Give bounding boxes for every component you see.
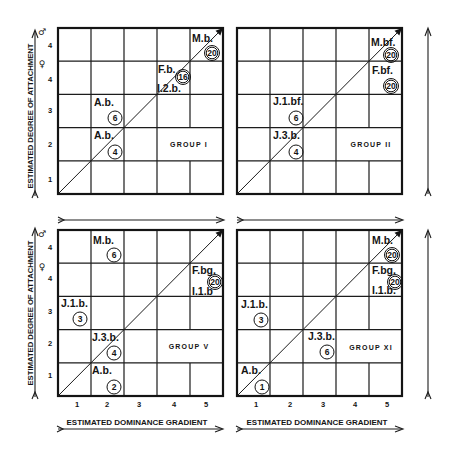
point-label: A.b. xyxy=(94,129,114,141)
point-label: A.b. xyxy=(92,364,112,376)
y-tick-4-male: 4 xyxy=(48,243,53,252)
male-symbol-icon: ♂ xyxy=(38,229,46,239)
y-tick-1: 1 xyxy=(48,175,52,184)
point-label: A.b. xyxy=(241,364,261,376)
point-count: 3 xyxy=(78,314,83,324)
female-symbol-icon: ♀ xyxy=(39,262,46,272)
x-tick-4: 4 xyxy=(353,400,358,409)
diagonal-line xyxy=(58,29,222,194)
data-point: M.bf. 20 xyxy=(371,36,399,63)
point-label: J.3.b. xyxy=(308,330,335,342)
x-tick-4: 4 xyxy=(172,400,177,409)
x-axis-label: ESTIMATED DOMINANCE GRADIENT xyxy=(67,418,208,427)
point-label: J.3.b. xyxy=(273,129,300,141)
point-count: 3 xyxy=(259,315,264,325)
y-tick-1: 1 xyxy=(48,371,52,380)
x-tick-5: 5 xyxy=(385,400,389,409)
point-count: 1 xyxy=(260,382,265,392)
x-tick-1: 1 xyxy=(254,400,258,409)
y-axis-label: ESTIMATED DEGREE OF ATTACHMENT xyxy=(26,43,35,188)
panel-group-i: M.b. 20 F.b. 16 I.2.b. A.b. 6 A.b. 4 GRO… xyxy=(58,28,223,194)
point-label: F.bf. xyxy=(372,64,393,76)
point-count: 4 xyxy=(112,348,117,358)
data-point: A.b. 2 xyxy=(92,364,121,394)
x-tick-5: 5 xyxy=(204,400,208,409)
y-tick-4-male: 4 xyxy=(48,41,53,50)
female-symbol-icon: ♀ xyxy=(39,59,46,69)
point-count: 2 xyxy=(112,382,117,392)
male-symbol-icon: ♂ xyxy=(38,27,46,37)
point-label: F.bg. xyxy=(192,264,216,276)
point-label: J.3.b. xyxy=(92,331,119,343)
x-axis-left: 1 2 3 4 5 ESTIMATED DOMINANCE GRADIENT xyxy=(57,400,223,432)
data-point: F.bg. 20 I.1.b. xyxy=(372,264,403,296)
data-point: M.b. 6 xyxy=(93,234,121,262)
point-label: J.1.bf. xyxy=(273,95,303,107)
point-label-secondary: I.2.b. xyxy=(157,82,181,94)
x-axis-label: ESTIMATED DOMINANCE GRADIENT xyxy=(247,418,388,427)
point-count: 6 xyxy=(112,250,117,260)
middle-arrow-right xyxy=(237,217,403,223)
point-label: J.1.b. xyxy=(61,297,88,309)
data-point: F.bf. 20 xyxy=(372,64,399,94)
data-point: M.b. 20 xyxy=(372,234,400,263)
data-point: J.3.b. 4 xyxy=(92,331,121,360)
point-label: J.1.b. xyxy=(241,298,268,310)
data-point: F.bg. 20 I.1.b xyxy=(192,264,223,297)
x-tick-3: 3 xyxy=(321,400,325,409)
y-tick-3: 3 xyxy=(48,307,52,316)
point-count: 6 xyxy=(294,113,299,123)
point-label: F.b. xyxy=(158,63,176,75)
point-label-secondary: I.1.b. xyxy=(372,284,396,296)
diagonal-line xyxy=(237,29,401,194)
data-point: F.b. 16 I.2.b. xyxy=(157,63,191,94)
right-arrow-top xyxy=(425,28,431,196)
x-tick-1: 1 xyxy=(75,400,79,409)
group-title: GROUP V xyxy=(169,343,210,350)
attachment-dominance-figure: ESTIMATED DEGREE OF ATTACHMENT ♂ ♀ 4 4 3… xyxy=(0,0,452,458)
data-point: J.3.b. 4 xyxy=(273,129,303,159)
panel-group-xi: M.b. 20 F.bg. 20 I.1.b. J.1.b. 3 J.3.b. … xyxy=(237,230,403,396)
point-label: M.b. xyxy=(93,234,114,246)
data-point: J.1.b. 3 xyxy=(241,298,268,327)
point-count: 20 xyxy=(386,81,396,91)
data-point: J.1.b. 3 xyxy=(61,297,88,326)
panel-group-ii: M.bf. 20 F.bf. 20 J.1.bf. 6 J.3.b. 4 GRO… xyxy=(237,28,402,194)
panel-group-v: M.b. 6 F.bg. 20 I.1.b J.1.b. 3 J.3.b. 4 … xyxy=(58,230,223,396)
point-label: M.b. xyxy=(192,32,213,44)
diagonal-line xyxy=(58,231,222,396)
y-tick-3: 3 xyxy=(48,106,52,115)
point-count: 6 xyxy=(325,347,330,357)
point-label: M.b. xyxy=(372,234,393,246)
data-point: A.b. 6 xyxy=(94,96,122,125)
point-count: 6 xyxy=(113,113,118,123)
y-axis-top: ESTIMATED DEGREE OF ATTACHMENT ♂ ♀ 4 4 3… xyxy=(26,27,53,198)
y-axis-label: ESTIMATED DEGREE OF ATTACHMENT xyxy=(26,240,35,385)
point-count: 20 xyxy=(386,50,396,60)
group-title: GROUP XI xyxy=(349,344,393,351)
group-title: GROUP II xyxy=(351,141,392,148)
data-point: J.3.b. 6 xyxy=(308,330,335,359)
x-axis-right: 1 2 3 4 5 ESTIMATED DOMINANCE GRADIENT xyxy=(236,400,403,432)
point-count: 16 xyxy=(178,72,188,82)
x-tick-3: 3 xyxy=(137,400,141,409)
point-label: M.bf. xyxy=(371,36,396,48)
middle-arrow-left xyxy=(58,217,224,223)
point-count: 4 xyxy=(294,147,299,157)
point-label-secondary: I.1.b xyxy=(192,285,213,297)
x-tick-2: 2 xyxy=(288,400,292,409)
point-label: A.b. xyxy=(94,96,114,108)
point-count: 20 xyxy=(207,48,217,58)
x-tick-2: 2 xyxy=(105,400,109,409)
y-axis-bottom: ESTIMATED DEGREE OF ATTACHMENT ♂ ♀ 4 4 3… xyxy=(26,228,53,399)
data-point: J.1.bf. 6 xyxy=(273,95,303,125)
right-arrow-bottom xyxy=(425,230,431,399)
y-tick-4-female: 4 xyxy=(48,75,53,84)
y-tick-2: 2 xyxy=(48,339,52,348)
point-count: 20 xyxy=(387,250,397,260)
group-title: GROUP I xyxy=(170,141,208,148)
point-count: 4 xyxy=(113,147,118,157)
point-label: F.bg. xyxy=(372,264,396,276)
y-tick-4-female: 4 xyxy=(48,274,53,283)
y-tick-2: 2 xyxy=(48,140,52,149)
